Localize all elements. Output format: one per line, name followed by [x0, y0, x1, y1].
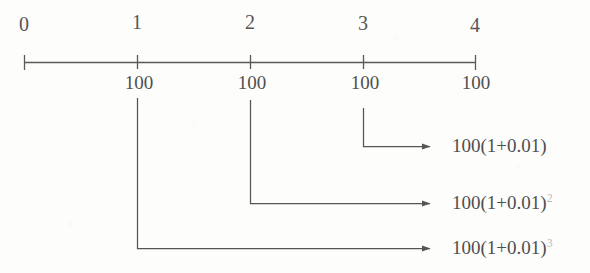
future-value-exponent-3: 3: [547, 237, 553, 250]
elbow-arrow-from-period-3: [364, 108, 431, 147]
axis-tick-label-1: 1: [132, 12, 142, 32]
elbow-arrow-path-1: [364, 108, 431, 147]
future-value-text-3: 100(1+0.01): [452, 237, 547, 258]
future-value-label-period-3: 100(1+0.01): [452, 136, 547, 155]
deposit-amount-label-2: 100: [238, 73, 267, 92]
elbow-arrow-from-period-1: [138, 98, 431, 249]
deposit-amount-label-1: 100: [125, 73, 154, 92]
future-value-label-period-2: 100(1+0.01)2: [452, 193, 553, 212]
number-line-group: [24, 55, 476, 70]
elbow-arrow-path-2: [251, 100, 431, 204]
axis-tick-label-4: 4: [470, 15, 480, 35]
deposit-amount-label-4: 100: [462, 73, 491, 92]
future-value-label-period-1: 100(1+0.01)3: [452, 238, 553, 257]
axis-tick-label-2: 2: [245, 12, 255, 32]
future-value-text-2: 100(1+0.01): [452, 192, 547, 213]
axis-tick-label-0: 0: [19, 14, 29, 34]
elbow-arrow-path-3: [138, 98, 431, 249]
deposit-amount-label-3: 100: [351, 73, 380, 92]
axis-tick-label-3: 3: [358, 13, 368, 33]
elbow-arrow-from-period-2: [251, 100, 431, 204]
future-value-text-1: 100(1+0.01): [452, 135, 547, 156]
future-value-exponent-2: 2: [547, 192, 553, 205]
figure-canvas: 0 1 2 3 4 100 100 100 100 100(1+0.01) 10…: [0, 0, 590, 273]
